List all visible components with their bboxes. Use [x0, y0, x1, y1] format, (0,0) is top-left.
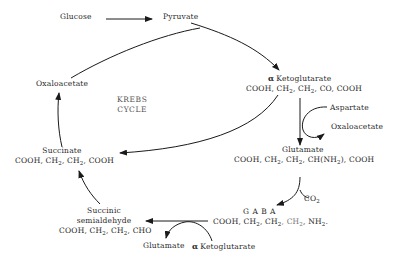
- arrow-semialdehyde-succinate: [79, 171, 100, 204]
- node-succinate: Succinate: [42, 147, 81, 155]
- node-name: Ketoglutarate: [276, 74, 331, 83]
- formula-succinate: COOH, CH2, CH2, COOH: [15, 157, 114, 165]
- arrow-pyruvate-ketoglutarate: [191, 23, 279, 70]
- node-glucose: Glucose: [60, 13, 92, 21]
- arrow-aspartate-oxaloacetate: [302, 107, 327, 138]
- node-glutamate: Glutamate: [282, 146, 324, 154]
- arrow-ketoglutarate-glutamate-side: [166, 222, 212, 241]
- formula-glutamate: COOH, CH2, CH2, CH(NH2), COOH: [234, 156, 374, 164]
- arrow-succinate-oxaloacetate: [58, 93, 62, 147]
- center-label-line2: CYCLE: [117, 105, 147, 115]
- node-name: Ketoglutarate: [200, 242, 255, 251]
- alpha-symbol: α: [192, 241, 198, 251]
- node-co2: CO2: [304, 195, 320, 203]
- arrow-oxaloacetate-ketoglutarate: [71, 28, 200, 78]
- node-alpha-ketoglutarate-side: αKetoglutarate: [192, 242, 255, 251]
- node-gaba: G A B A: [243, 208, 276, 216]
- center-label: KREBS CYCLE: [117, 95, 147, 115]
- node-aspartate: Aspartate: [330, 104, 369, 112]
- formula-gaba: COOH, CH2, CH2, CH2, NH2.: [213, 218, 328, 226]
- arrow-glutamate-gaba: [277, 177, 300, 205]
- center-label-line1: KREBS: [117, 95, 147, 105]
- alpha-symbol: α: [268, 73, 274, 83]
- node-pyruvate: Pyruvate: [163, 13, 198, 21]
- node-oxaloacetate-side: Oxaloacetate: [331, 123, 383, 131]
- node-succinic-semialdehyde-line1: Succinic: [87, 207, 121, 215]
- formula-succinic-semialdehyde: COOH, CH2, CH2, CHO: [59, 227, 152, 235]
- node-alpha-ketoglutarate: αKetoglutarate: [268, 74, 331, 83]
- node-oxaloacetate: Oxaloacetate: [36, 80, 88, 88]
- formula-alpha-ketoglutarate: COOH, CH2, CH2, CO, COOH: [246, 85, 362, 93]
- node-succinic-semialdehyde-line2: semialdehyde: [77, 217, 132, 225]
- node-glutamate-side: Glutamate: [143, 242, 185, 250]
